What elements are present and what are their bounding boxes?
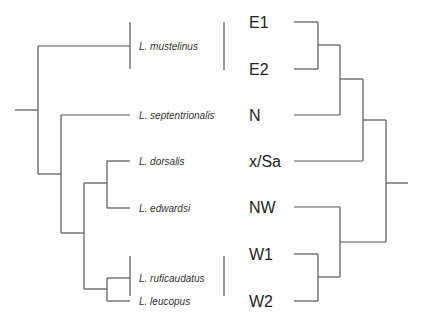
label-N: N xyxy=(249,107,261,124)
species-labels: L. mustelinus L. septentrionalis L. dors… xyxy=(139,41,215,307)
label-W2: W2 xyxy=(249,293,273,310)
left-tree xyxy=(15,22,130,301)
label-leucopus: L. leucopus xyxy=(139,296,190,307)
label-septentrionalis: L. septentrionalis xyxy=(139,110,215,121)
label-edwardsi: L. edwardsi xyxy=(139,203,191,214)
tanglegram: L. mustelinus L. septentrionalis L. dors… xyxy=(0,0,423,323)
label-dorsalis: L. dorsalis xyxy=(139,156,185,167)
tree-canvas: L. mustelinus L. septentrionalis L. dors… xyxy=(0,0,423,323)
label-ruficaudatus: L. ruficaudatus xyxy=(139,273,205,284)
label-mustelinus: L. mustelinus xyxy=(139,41,198,52)
label-E2: E2 xyxy=(249,61,269,78)
label-E1: E1 xyxy=(249,14,269,31)
label-xSa: x/Sa xyxy=(249,153,281,170)
label-NW: NW xyxy=(249,199,277,216)
label-W1: W1 xyxy=(249,246,273,263)
right-tree xyxy=(294,22,408,301)
population-labels: E1 E2 N x/Sa NW W1 W2 xyxy=(249,14,281,310)
